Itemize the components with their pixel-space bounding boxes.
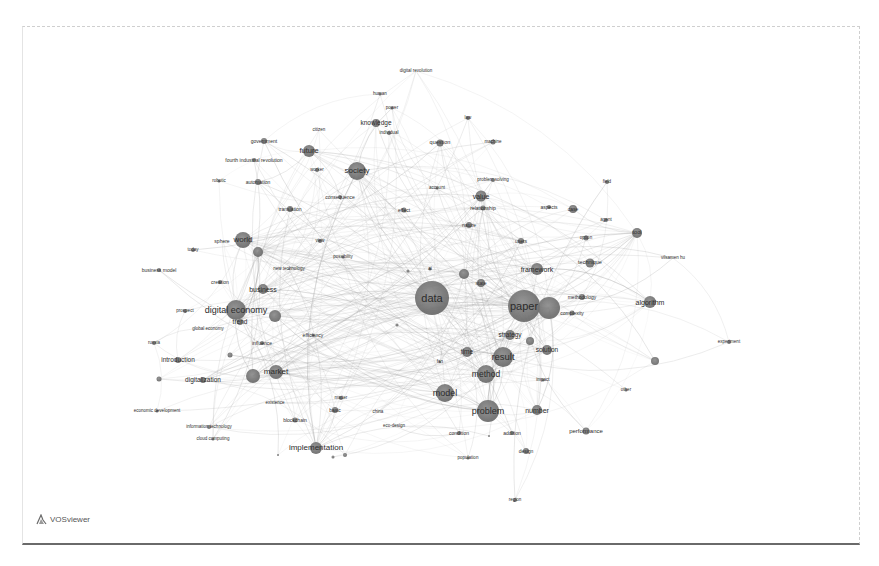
node-label[interactable]: power: [386, 106, 398, 111]
node-label[interactable]: china: [373, 410, 384, 415]
node-label[interactable]: methodology: [568, 295, 597, 300]
node-label[interactable]: knowledge: [360, 120, 391, 127]
network-node[interactable]: [651, 357, 659, 365]
network-node[interactable]: [157, 377, 162, 382]
network-node[interactable]: [246, 369, 260, 383]
node-label[interactable]: introduction: [161, 357, 195, 364]
node-label[interactable]: possibility: [333, 255, 353, 260]
network-node[interactable]: [332, 456, 335, 459]
node-label[interactable]: future: [299, 147, 318, 155]
node-label[interactable]: nature: [462, 223, 476, 228]
node-label[interactable]: question: [430, 140, 451, 146]
network-node[interactable]: [396, 324, 399, 327]
node-label[interactable]: condition: [449, 431, 469, 436]
network-node[interactable]: [526, 337, 534, 345]
node-label[interactable]: impact: [536, 378, 549, 383]
network-node[interactable]: [407, 270, 410, 273]
node-label[interactable]: algorithm: [636, 299, 665, 306]
network-node[interactable]: [488, 435, 490, 437]
node-label[interactable]: society: [345, 167, 370, 175]
node-label[interactable]: new technology: [273, 267, 304, 272]
node-label[interactable]: fourth industrial revolution: [225, 158, 282, 163]
node-label[interactable]: option: [580, 236, 592, 241]
node-label[interactable]: paper: [510, 301, 538, 312]
node-label[interactable]: digitalization: [185, 377, 221, 384]
node-label[interactable]: consequence: [325, 195, 355, 200]
node-label[interactable]: individual: [380, 131, 399, 136]
node-label[interactable]: region: [509, 498, 522, 503]
node-label[interactable]: existence: [265, 401, 284, 406]
node-label[interactable]: users: [515, 239, 527, 244]
node-label[interactable]: government: [251, 139, 277, 144]
node-label[interactable]: information technology: [186, 425, 231, 430]
node-label[interactable]: russia: [148, 341, 160, 346]
node-label[interactable]: machine: [484, 140, 501, 145]
network-node[interactable]: [228, 353, 233, 358]
node-label[interactable]: sphere: [214, 239, 229, 244]
node-label[interactable]: digital economy: [205, 306, 268, 315]
node-label[interactable]: translation: [278, 207, 301, 212]
node-label[interactable]: view: [315, 239, 324, 244]
node-label[interactable]: citizen: [313, 128, 326, 133]
node-label[interactable]: global economy: [192, 327, 224, 332]
node-label[interactable]: agent: [600, 218, 611, 223]
node-label[interactable]: human: [373, 92, 387, 97]
node-label[interactable]: design: [519, 449, 534, 454]
node-label[interactable]: vilsamen hu: [661, 256, 685, 261]
node-label[interactable]: automation: [246, 180, 271, 185]
node-label[interactable]: time: [461, 349, 473, 356]
node-label[interactable]: influence: [252, 341, 272, 346]
node-label[interactable]: digital revolution: [400, 69, 433, 74]
node-label[interactable]: framework: [521, 266, 554, 273]
node-label[interactable]: value: [473, 193, 490, 200]
node-label[interactable]: result: [491, 352, 514, 362]
node-label[interactable]: effect: [398, 208, 410, 213]
node-label[interactable]: performance: [569, 428, 603, 434]
node-label[interactable]: model: [433, 389, 458, 398]
node-label[interactable]: trend: [233, 319, 248, 326]
node-label[interactable]: fan: [437, 360, 443, 365]
node-label[interactable]: world: [233, 236, 252, 244]
node-label[interactable]: business: [249, 286, 277, 293]
node-label[interactable]: efficiency: [303, 333, 324, 338]
node-label[interactable]: data: [421, 293, 442, 304]
node-label[interactable]: worker: [310, 168, 324, 173]
node-label[interactable]: field: [603, 180, 611, 185]
node-label[interactable]: state: [476, 281, 487, 286]
node-label[interactable]: tool: [633, 230, 642, 236]
node-label[interactable]: relationship: [470, 206, 496, 211]
node-label[interactable]: strategy: [498, 332, 521, 339]
network-node[interactable]: [277, 454, 279, 456]
node-label[interactable]: robotic: [212, 179, 226, 184]
node-label[interactable]: basic: [329, 408, 341, 413]
network-node[interactable]: [343, 453, 347, 457]
network-node[interactable]: [459, 269, 469, 279]
node-label[interactable]: complexity: [560, 311, 584, 316]
network-node[interactable]: [269, 310, 281, 322]
node-label[interactable]: cloud computing: [197, 437, 230, 442]
node-label[interactable]: matter: [335, 396, 348, 401]
node-label[interactable]: experiment: [718, 340, 740, 345]
network-node[interactable]: [253, 247, 263, 257]
node-label[interactable]: solution: [536, 347, 558, 354]
node-label[interactable]: population: [458, 456, 479, 461]
node-label[interactable]: blockchain: [283, 418, 307, 423]
node-label[interactable]: addition: [503, 431, 521, 436]
network-node[interactable]: [538, 297, 560, 319]
node-label[interactable]: aspects: [540, 205, 557, 210]
node-label[interactable]: method: [472, 370, 500, 379]
node-label[interactable]: ai: [428, 267, 432, 272]
node-label[interactable]: eco-design: [383, 424, 405, 429]
node-label[interactable]: market: [264, 368, 288, 376]
node-label[interactable]: today: [187, 248, 198, 253]
node-label[interactable]: problem solving: [477, 178, 509, 183]
node-label[interactable]: implementation: [289, 444, 343, 452]
node-label[interactable]: prospect: [176, 309, 193, 314]
node-label[interactable]: law: [465, 116, 472, 121]
node-label[interactable]: number: [525, 407, 549, 414]
node-label[interactable]: case: [568, 207, 579, 212]
node-label[interactable]: technique: [578, 260, 602, 266]
node-label[interactable]: creation: [211, 280, 229, 285]
node-label[interactable]: other: [621, 388, 631, 393]
node-label[interactable]: business model: [142, 268, 177, 273]
